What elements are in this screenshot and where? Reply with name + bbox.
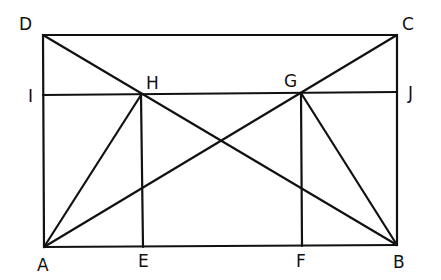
segment-GF [301,93,302,246]
segment-AD [43,35,44,247]
segment-BG [301,93,397,245]
label-point-D: D [19,16,32,33]
segment-AH [44,95,141,247]
segment-HE [141,95,143,247]
label-point-E: E [138,253,149,270]
construction-lines [0,0,441,280]
segment-BA [44,245,397,247]
label-point-G: G [284,73,297,90]
label-point-H: H [146,75,159,92]
label-point-C: C [402,16,414,33]
segment-IJ [43,92,397,95]
label-point-B: B [393,254,405,271]
diagram-canvas: D C I H G J A E F B [0,0,441,280]
label-point-I: I [28,88,33,105]
label-point-F: F [296,253,306,270]
label-point-J: J [408,85,413,102]
label-point-A: A [37,257,49,274]
